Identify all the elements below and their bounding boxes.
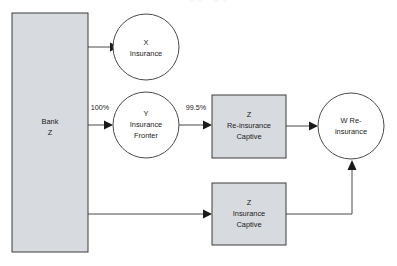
edge-z-reinsurance-to-w (286, 122, 318, 131)
node-y-insurance-fronter[interactable]: Y Insurance Fronter (113, 92, 179, 158)
edge-bank-to-y-fronter (88, 121, 113, 130)
node-z-insurance-captive[interactable]: Z Insurance Captive (212, 183, 286, 245)
w-reinsurance-label-line1: W Re- (341, 116, 362, 125)
z-insurance-captive-label-line3: Captive (236, 220, 261, 229)
bank-z-label-line1: Bank (42, 117, 59, 126)
insurance-structure-diagram: Bank Z X Insurance Y Insurance Fronter Z… (0, 0, 397, 266)
bank-z-label-line2: Z (48, 128, 53, 137)
edge-bank-to-z-insurance-captive (88, 210, 212, 219)
node-z-reinsurance-captive[interactable]: Z Re-insurance Captive (212, 95, 286, 158)
edge-y-fronter-to-z-reinsurance (179, 121, 212, 130)
clipped-top-text (189, 0, 227, 2)
x-insurance-circle[interactable] (113, 14, 179, 80)
edge-label-99-5-percent: 99.5% (186, 103, 207, 112)
y-insurance-fronter-label-line1: Y (144, 109, 149, 118)
diagram-canvas: Bank Z X Insurance Y Insurance Fronter Z… (0, 0, 397, 266)
w-reinsurance-label-line2: insurance (335, 127, 367, 136)
z-insurance-captive-label-line2: Insurance (233, 209, 265, 218)
y-insurance-fronter-label-line3: Fronter (134, 131, 158, 140)
node-bank-z[interactable]: Bank Z (12, 13, 88, 252)
edge-label-100-percent: 100% (91, 103, 110, 112)
z-reinsurance-captive-label-line3: Captive (236, 132, 261, 141)
node-x-insurance[interactable]: X Insurance (113, 14, 179, 80)
y-insurance-fronter-label-line2: Insurance (130, 120, 162, 129)
x-insurance-label-line2: Insurance (130, 49, 162, 58)
node-w-reinsurance[interactable]: W Re- insurance (318, 93, 384, 159)
z-reinsurance-captive-label-line2: Re-insurance (227, 121, 271, 130)
x-insurance-label-line1: X (144, 38, 149, 47)
z-insurance-captive-label-line1: Z (247, 198, 252, 207)
z-reinsurance-captive-label-line1: Z (247, 110, 252, 119)
edge-z-insurance-captive-to-w (286, 160, 357, 214)
